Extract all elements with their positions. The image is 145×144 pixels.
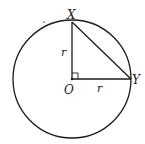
label-r-vertical: r	[61, 46, 67, 59]
geometry-diagram: X Y O r r	[0, 0, 145, 144]
label-y: Y	[132, 73, 141, 87]
label-r-horizontal: r	[97, 82, 103, 95]
circle-triangle-figure: X Y O r r	[0, 0, 145, 144]
label-o: O	[64, 83, 74, 97]
stray-dot	[43, 21, 45, 23]
center-point	[71, 78, 73, 80]
right-angle-marker	[72, 73, 78, 79]
label-x: X	[66, 8, 76, 22]
chord-xy	[72, 22, 131, 79]
